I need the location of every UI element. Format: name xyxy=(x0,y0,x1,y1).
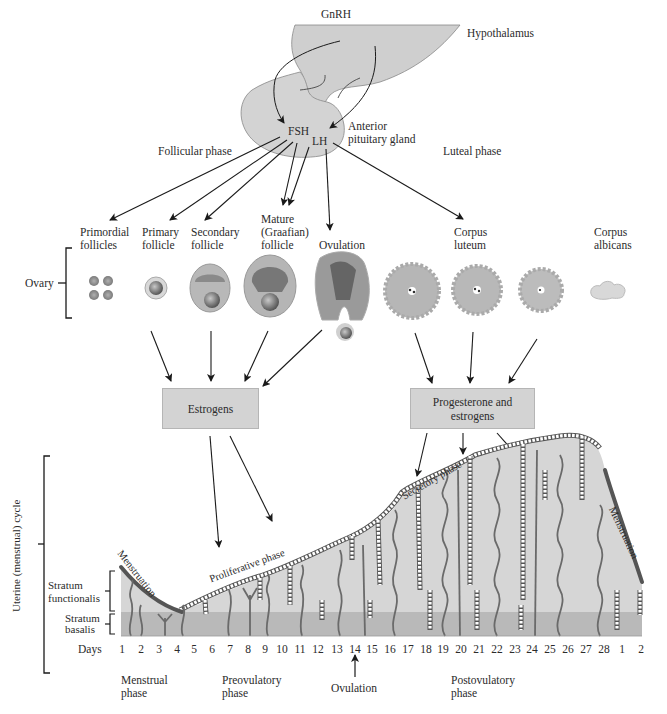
day-tick: 15 xyxy=(364,642,380,656)
stage-corpus-albicans-line1: Corpus xyxy=(594,225,627,239)
stage-mature-line2: (Graafian) xyxy=(261,225,309,239)
stage-primordial-line1: Primordial xyxy=(80,225,129,239)
luteal-phase-label: Luteal phase xyxy=(443,144,501,158)
follicular-phase-label: Follicular phase xyxy=(158,144,232,158)
progesterone-estrogens-box: Progesterone and estrogens xyxy=(410,388,535,429)
menstrual-phase-line2: phase xyxy=(121,686,147,700)
stage-corpus-luteum-line2: luteum xyxy=(454,238,486,252)
postovulatory-phase-line1: Postovulatory xyxy=(451,673,515,687)
day-tick: 24 xyxy=(524,642,540,656)
day-tick: 1 xyxy=(615,642,629,656)
day-tick: 12 xyxy=(310,642,326,656)
day-tick: 18 xyxy=(418,642,434,656)
day-tick: 22 xyxy=(489,642,505,656)
stage-corpus-luteum-line1: Corpus xyxy=(454,225,487,239)
day-tick: 13 xyxy=(329,642,345,656)
estrogens-box: Estrogens xyxy=(162,388,259,429)
diagram-graphics xyxy=(0,0,667,714)
fsh-label: FSH xyxy=(288,124,309,138)
day-tick: 10 xyxy=(274,642,290,656)
stage-primary-line2: follicle xyxy=(142,238,175,252)
day-tick: 28 xyxy=(596,642,612,656)
day-tick: 8 xyxy=(241,642,255,656)
stage-secondary-line1: Secondary xyxy=(191,225,240,239)
stage-ovulation-label: Ovulation xyxy=(319,238,365,252)
hypothalamus-label: Hypothalamus xyxy=(467,26,534,40)
primary-follicle-icon xyxy=(145,277,167,299)
preovulatory-phase-line2: phase xyxy=(222,686,248,700)
ovulation-day-label: Ovulation xyxy=(331,681,377,695)
day-tick: 25 xyxy=(542,642,558,656)
secondary-follicle-icon xyxy=(190,264,230,312)
day-tick: 2 xyxy=(634,642,648,656)
mature-follicle-icon xyxy=(244,255,296,317)
menstrual-phase-line1: Menstrual xyxy=(121,673,168,687)
corpus-luteum-icon xyxy=(385,264,562,318)
gnrh-label: GnRH xyxy=(321,7,351,21)
progesterone-label-line1: Progesterone and xyxy=(433,395,513,409)
stratum-basalis-line2: basalis xyxy=(65,622,95,636)
progesterone-label-line2: estrogens xyxy=(451,409,494,423)
ovary-bracket xyxy=(58,248,72,318)
stage-corpus-albicans-line2: albicans xyxy=(594,238,632,252)
pituitary-label-line2: pituitary gland xyxy=(348,132,415,146)
day-tick: 27 xyxy=(578,642,594,656)
stage-secondary-line2: follicle xyxy=(191,238,224,252)
ovulation-follicle-icon xyxy=(315,252,369,341)
day-tick: 16 xyxy=(382,642,398,656)
corpus-albicans-icon xyxy=(591,281,625,299)
day-tick: 9 xyxy=(258,642,272,656)
day-tick: 14 xyxy=(347,642,363,656)
day-tick: 17 xyxy=(400,642,416,656)
day-tick: 4 xyxy=(170,642,184,656)
day-tick: 23 xyxy=(507,642,523,656)
postovulatory-phase-line2: phase xyxy=(451,686,477,700)
lh-label: LH xyxy=(312,134,327,148)
preovulatory-phase-line1: Preovulatory xyxy=(222,673,281,687)
day-tick: 20 xyxy=(453,642,469,656)
days-axis: 1 2 3 4 5 6 7 8 9 10 11 12 13 14 15 16 1… xyxy=(0,642,667,656)
estrogens-label: Estrogens xyxy=(188,402,233,416)
day-tick: 21 xyxy=(471,642,487,656)
uterine-cycle-bracket xyxy=(38,456,50,673)
stage-primary-line1: Primary xyxy=(142,225,179,239)
day-tick: 1 xyxy=(115,642,129,656)
pituitary-label-line1: Anterior xyxy=(348,119,387,133)
stage-mature-line3: follicle xyxy=(261,238,294,252)
stage-mature-line1: Mature xyxy=(261,212,294,226)
day-tick: 26 xyxy=(560,642,576,656)
ovary-label: Ovary xyxy=(25,276,54,290)
day-tick: 2 xyxy=(134,642,148,656)
day-tick: 6 xyxy=(205,642,219,656)
day-tick: 7 xyxy=(223,642,237,656)
day-tick: 3 xyxy=(152,642,166,656)
day-tick: 5 xyxy=(187,642,201,656)
stage-primordial-line2: follicles xyxy=(80,238,117,252)
endometrium-graphic xyxy=(121,434,642,636)
primordial-follicles-icon xyxy=(89,276,113,300)
uterine-cycle-label: Uterine (menstrual) cycle xyxy=(10,500,22,612)
stratum-functionalis-line1: Stratum xyxy=(48,578,83,592)
menstrual-cycle-diagram: GnRH Hypothalamus FSH LH Anterior pituit… xyxy=(0,0,667,714)
stratum-functionalis-line2: functionalis xyxy=(48,591,100,605)
day-tick: 11 xyxy=(292,642,308,656)
day-tick: 19 xyxy=(435,642,451,656)
